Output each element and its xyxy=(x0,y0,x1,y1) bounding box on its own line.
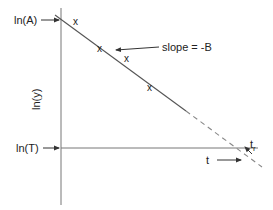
y-axis-label: ln(y) xyxy=(30,89,42,110)
slope-arrow xyxy=(116,47,159,50)
slope-label: slope = -B xyxy=(162,41,212,53)
regression-line-solid xyxy=(55,15,186,111)
data-marker: x xyxy=(73,16,78,27)
y-intercept-label: ln(A) xyxy=(14,14,37,26)
decay-diagram: ln(A) ln(T) ln(y) x x x x slope = -B t t… xyxy=(0,0,273,210)
data-marker: x xyxy=(97,43,102,54)
x-axis-label: t xyxy=(206,154,209,166)
crossing-time-label: tr xyxy=(250,138,256,153)
data-marker: x xyxy=(147,82,152,93)
data-marker: x xyxy=(124,53,129,64)
threshold-label: ln(T) xyxy=(16,142,39,154)
